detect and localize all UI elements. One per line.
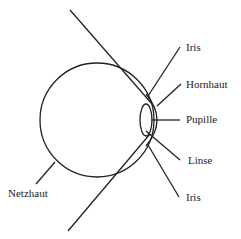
- label-iris-top: Iris: [186, 42, 201, 53]
- label-linse: Linse: [188, 155, 212, 166]
- leader-netzhaut: [36, 162, 55, 184]
- leader-iris-bottom: [148, 145, 179, 197]
- leader-linse: [146, 131, 180, 160]
- eyeball: [40, 63, 154, 177]
- leader-hornhaut: [157, 84, 181, 106]
- label-iris-bottom: Iris: [186, 192, 201, 203]
- light-ray-top: [70, 10, 152, 104]
- label-hornhaut: Hornhaut: [186, 79, 228, 90]
- label-pupille: Pupille: [186, 114, 217, 125]
- light-ray-bottom: [68, 134, 150, 231]
- label-netzhaut: Netzhaut: [8, 188, 48, 199]
